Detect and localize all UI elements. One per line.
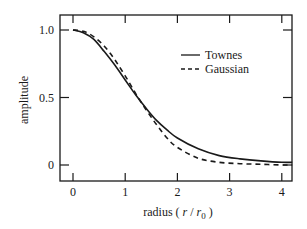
y-tick-label: 1.0 (39, 23, 54, 37)
x-axis-label-suffix: ) (206, 205, 213, 219)
y-axis-ticks (60, 30, 292, 165)
x-tick-label: 1 (122, 185, 128, 199)
y-axis-tick-labels: 00.51.0 (39, 23, 54, 172)
legend: Townes Gaussian (181, 48, 249, 76)
y-axis-label: amplitude (17, 76, 31, 124)
x-axis-label: radius ( r / r0 ) (143, 205, 213, 221)
x-axis-tick-labels: 01234 (70, 185, 285, 199)
x-tick-label: 3 (227, 185, 233, 199)
x-tick-label: 0 (70, 185, 76, 199)
legend-label-gaussian: Gaussian (205, 62, 249, 76)
x-tick-label: 4 (279, 185, 285, 199)
y-tick-label: 0.5 (39, 91, 54, 105)
x-axis-label-slash: / (187, 205, 196, 219)
series-line-townes (73, 30, 292, 162)
series-line-gaussian (73, 30, 292, 165)
x-axis-ticks (73, 15, 282, 181)
data-series (73, 30, 292, 165)
x-tick-label: 2 (174, 185, 180, 199)
chart-canvas: 01234 00.51.0 Townes Gaussian amplitude … (0, 0, 307, 229)
x-axis-label-prefix: radius ( (143, 205, 182, 219)
y-tick-label: 0 (48, 158, 54, 172)
legend-label-townes: Townes (205, 48, 242, 62)
